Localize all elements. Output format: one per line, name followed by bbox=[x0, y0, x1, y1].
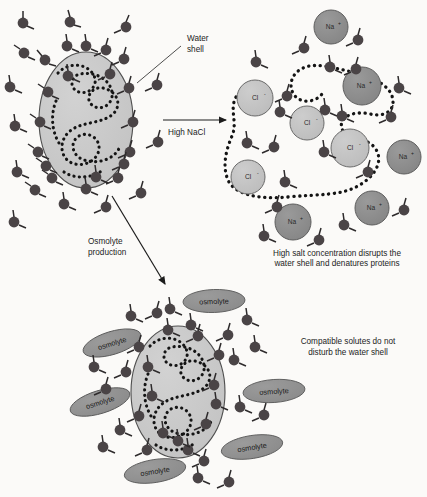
sodium-ion: Na + bbox=[387, 140, 421, 174]
sodium-ion-label: Na bbox=[326, 23, 335, 30]
water-shell-label: Water bbox=[187, 34, 209, 43]
chloride-ion-label: Cl bbox=[304, 119, 311, 126]
chloride-ion: Cl - bbox=[231, 160, 265, 194]
osmolyte-production-label: Osmolyte bbox=[88, 237, 123, 246]
osmolyte-label: osmolyte bbox=[199, 296, 229, 306]
chloride-ion: Cl - bbox=[237, 80, 273, 116]
sodium-charge: + bbox=[338, 20, 341, 26]
chloride-ion-label: Cl bbox=[245, 173, 252, 180]
sodium-ion-label: Na bbox=[288, 218, 297, 225]
chloride-ion: Cl - bbox=[290, 106, 324, 140]
sodium-ion-label: Na bbox=[399, 153, 408, 160]
sodium-charge: + bbox=[369, 79, 372, 85]
osmolyte-caption-line1: Compatible solutes do not bbox=[301, 337, 396, 346]
chloride-ion-label: Cl bbox=[252, 94, 259, 101]
osmolyte-production-label-line2: production bbox=[88, 248, 127, 257]
diagram-canvas: Water shell High NaCl Osmolyte productio… bbox=[0, 0, 427, 497]
chloride-ion: Cl - bbox=[331, 129, 369, 167]
sodium-charge: + bbox=[379, 201, 382, 207]
sodium-ion-label: Na bbox=[357, 82, 366, 89]
osmolyte-caption-line2: disturb the water shell bbox=[308, 348, 388, 357]
sodium-ion: Na + bbox=[355, 191, 389, 225]
water-shell-label-line2: shell bbox=[187, 45, 204, 54]
high-nacl-label: High NaCl bbox=[168, 128, 205, 137]
high-salt-caption-line2: water shell and denatures proteins bbox=[273, 259, 399, 268]
chloride-ion-label: Cl bbox=[347, 144, 354, 151]
sodium-ion-label: Na bbox=[367, 204, 376, 211]
high-salt-caption-line1: High salt concentration disrupts the bbox=[273, 249, 401, 258]
sodium-charge: + bbox=[411, 150, 414, 156]
figure-root: Water shell High NaCl Osmolyte productio… bbox=[0, 0, 427, 497]
sodium-charge: + bbox=[300, 215, 303, 221]
sodium-ion: Na + bbox=[314, 10, 348, 44]
